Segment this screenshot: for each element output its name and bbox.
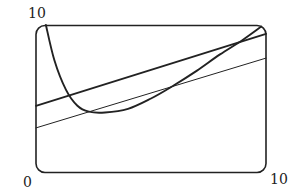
thin-line-series [36,58,266,128]
series-layer [36,25,266,128]
y-max-tick-label: 10 [28,6,46,20]
x-max-tick-label: 10 [270,172,288,186]
chart: 10 0 10 [0,0,292,191]
origin-tick-label: 0 [23,175,32,189]
plot-area [0,0,292,191]
thick-line-series [36,34,266,106]
